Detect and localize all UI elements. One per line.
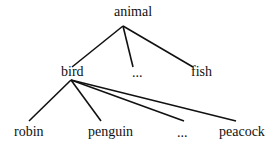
node-penguin: penguin: [88, 125, 133, 139]
edge-bird-robin: [29, 80, 71, 121]
node-peacock: peacock: [219, 125, 265, 139]
edge-animal-bird: [72, 26, 123, 67]
node-ellipsis-animal-children: ...: [132, 66, 143, 80]
node-bird: bird: [61, 65, 84, 79]
node-animal: animal: [114, 5, 152, 19]
edge-animal-fish: [123, 26, 193, 67]
edge-animal-ellipsis1: [123, 26, 133, 67]
node-robin: robin: [14, 125, 44, 139]
node-ellipsis-bird-children: ...: [177, 126, 188, 140]
taxonomy-tree-diagram: animal bird ... fish robin penguin ... p…: [0, 0, 275, 148]
edge-bird-ellipsis2: [71, 80, 184, 121]
node-fish: fish: [191, 65, 212, 79]
